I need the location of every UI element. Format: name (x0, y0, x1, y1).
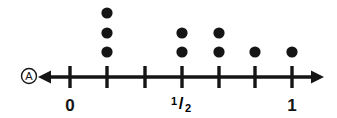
slash-icon: / (179, 94, 184, 113)
dot-stack-two-thirds (213, 27, 224, 57)
data-dot (176, 46, 187, 57)
left-arrow-icon (38, 71, 51, 84)
data-dot (101, 27, 112, 38)
data-dot (213, 46, 224, 57)
data-dot (213, 27, 224, 38)
number-line-plot-svg: A 0 1 / 2 1 (0, 0, 337, 118)
data-dots-group (101, 7, 297, 57)
part-label-letter: A (25, 70, 33, 82)
dot-stack-one-half (176, 27, 187, 57)
tick-label-zero: 0 (65, 96, 74, 115)
part-label-a: A (22, 69, 37, 84)
data-dot (101, 7, 112, 18)
right-arrow-icon (311, 71, 324, 84)
tick-label-one-half-numerator: 1 (171, 95, 177, 107)
data-dot (101, 46, 112, 57)
dot-plot-number-line-figure: A 0 1 / 2 1 (0, 0, 337, 118)
data-dot (176, 27, 187, 38)
tick-labels-group: 0 1 / 2 1 (65, 94, 296, 115)
data-dot (249, 46, 260, 57)
dot-stack-one (286, 46, 297, 57)
tick-label-one-half: 1 / 2 (171, 94, 191, 114)
data-dot (286, 46, 297, 57)
tick-label-one: 1 (287, 96, 296, 115)
dot-stack-five-sixths (249, 46, 260, 57)
tick-label-one-half-denominator: 2 (185, 102, 191, 114)
dot-stack-one-sixth (101, 7, 112, 57)
